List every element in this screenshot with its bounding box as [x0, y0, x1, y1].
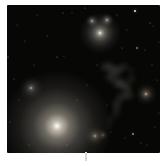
nebula-patch: [106, 122, 112, 130]
star: [147, 145, 148, 146]
galaxy-bottom-double-b: [97, 129, 109, 141]
nebula-patch: [117, 63, 129, 71]
star: [57, 57, 58, 58]
star: [111, 132, 112, 133]
nebula-patch: [120, 82, 132, 92]
star: [25, 41, 26, 42]
star: [77, 100, 78, 101]
galaxy-right-edge: [135, 83, 157, 105]
star: [155, 127, 156, 128]
star: [122, 48, 123, 49]
nebula-patch: [112, 98, 122, 110]
star: [134, 10, 136, 12]
star: [97, 65, 98, 66]
star: [47, 36, 48, 37]
companion-galaxy-a: [86, 15, 99, 28]
frame-artifact-tick: [85, 152, 87, 161]
star: [87, 85, 88, 86]
bright-galaxy-top: [79, 12, 121, 54]
star: [125, 138, 126, 139]
star: [145, 50, 146, 51]
star: [127, 30, 128, 31]
star: [136, 47, 138, 49]
star: [72, 13, 73, 14]
star: [64, 56, 65, 57]
nebula-patch: [109, 66, 123, 76]
star: [157, 80, 158, 81]
star: [152, 65, 153, 66]
galaxy-bottom-double-a: [85, 126, 106, 147]
star: [8, 57, 9, 58]
star: [63, 13, 64, 14]
star: [107, 105, 108, 106]
nebula-patch: [112, 77, 126, 89]
nebula-patch: [122, 90, 134, 100]
star: [17, 25, 18, 26]
nebula-patch: [127, 68, 135, 74]
star: [159, 42, 160, 43]
star: [85, 8, 86, 9]
star: [141, 143, 142, 144]
nebula-patch: [126, 75, 136, 83]
star: [117, 15, 118, 16]
star: [14, 79, 15, 80]
star: [153, 26, 154, 27]
star: [67, 145, 68, 146]
star: [19, 100, 20, 101]
star: [34, 65, 35, 66]
star: [132, 133, 134, 135]
nebula-patch: [100, 62, 116, 72]
galaxy-mid-left: [19, 76, 43, 100]
astronomy-photo: [7, 5, 160, 153]
companion-galaxy-b: [100, 13, 114, 27]
nebula-patch: [112, 106, 120, 118]
star: [10, 122, 11, 123]
nebula-patch: [116, 92, 126, 102]
star: [159, 113, 160, 114]
nebula-patch: [105, 72, 117, 82]
star: [150, 23, 151, 24]
screenshot-root: [0, 0, 166, 166]
star: [29, 145, 30, 146]
large-elliptical-galaxy: [7, 70, 113, 153]
star: [37, 15, 38, 16]
nebula-patch: [107, 115, 115, 125]
